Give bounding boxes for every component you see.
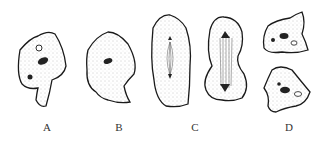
- food-vacuole: [28, 75, 33, 80]
- cell-d-bottom: [264, 67, 310, 112]
- label-a: A: [43, 121, 51, 133]
- nucleus: [280, 33, 289, 39]
- cell-a: [18, 32, 66, 106]
- fission-figure: A B C D: [0, 0, 322, 144]
- cell-d-top: [264, 12, 309, 53]
- cell-b: [87, 32, 135, 103]
- contractile-vacuole: [36, 45, 42, 51]
- label-c: C: [191, 121, 198, 133]
- cell-c: [152, 15, 191, 107]
- cell-c-elongated: [205, 17, 247, 101]
- label-b: B: [115, 121, 122, 133]
- label-d: D: [285, 121, 293, 133]
- nucleus: [280, 87, 290, 94]
